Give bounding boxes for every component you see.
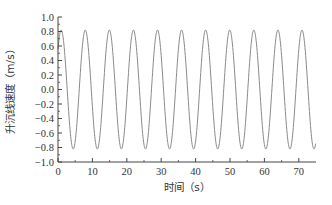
- x-tick-label: 30: [156, 166, 167, 177]
- y-tick-label: 0.8: [41, 26, 54, 37]
- line-chart: 1.00.80.60.40.20.0−0.2−0.4−0.6−0.8−1.0 0…: [0, 0, 332, 205]
- x-tick-label: 40: [190, 166, 201, 177]
- y-tick-label: −1.0: [35, 157, 54, 168]
- x-tick-label: 10: [87, 166, 98, 177]
- y-tick-label: 0.4: [41, 55, 55, 66]
- x-axis-title: 时间（s）: [164, 181, 209, 193]
- x-tick-label: 20: [122, 166, 133, 177]
- y-tick-label: −0.4: [35, 113, 55, 124]
- x-tick-label: 60: [259, 166, 270, 177]
- x-tick-label: 0: [55, 166, 60, 177]
- x-axis: 010203040506070: [55, 158, 316, 177]
- y-tick-label: −0.2: [35, 99, 54, 110]
- y-tick-label: 0.6: [41, 41, 54, 52]
- y-tick-label: 0.0: [41, 84, 54, 95]
- series-line: [58, 30, 316, 149]
- plot-area: [58, 30, 316, 149]
- x-tick-label: 70: [294, 166, 305, 177]
- y-tick-label: −0.6: [35, 128, 54, 139]
- y-tick-label: 1.0: [41, 12, 54, 23]
- y-tick-label: 0.2: [41, 70, 54, 81]
- x-tick-label: 50: [225, 166, 236, 177]
- y-tick-label: −0.8: [35, 142, 54, 153]
- y-axis: 1.00.80.60.40.20.0−0.2−0.4−0.6−0.8−1.0: [35, 12, 62, 168]
- y-axis-title: 升沉线速度（m/s）: [4, 44, 16, 133]
